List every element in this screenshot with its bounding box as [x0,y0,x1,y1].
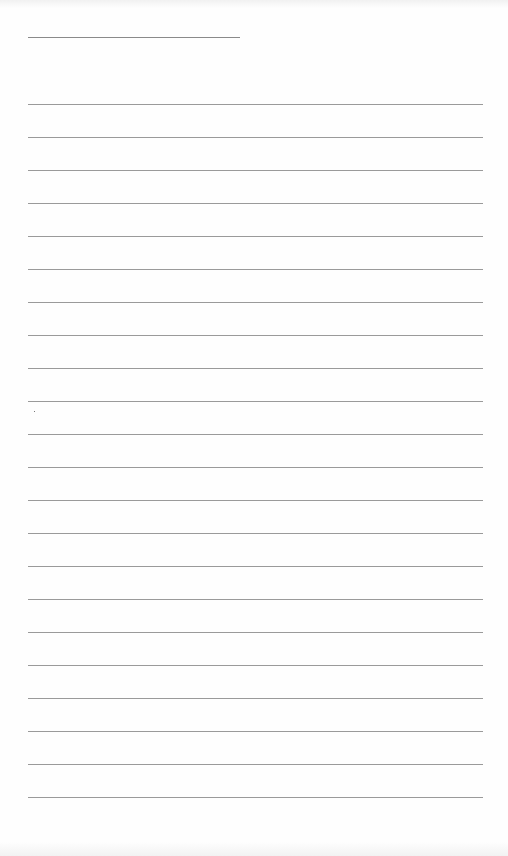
ruled-line [28,599,483,600]
ruled-line [28,335,483,336]
ruled-line [28,104,483,105]
page-top-edge [0,0,508,8]
ruled-line [28,731,483,732]
ruled-line [28,797,483,798]
ruled-line [28,698,483,699]
header-line [28,37,240,38]
page-bottom-edge [0,842,508,856]
ruled-line [28,764,483,765]
ruled-line [28,566,483,567]
ruled-line [28,137,483,138]
ruled-line [28,434,483,435]
ruled-line [28,368,483,369]
ink-dot [34,411,35,412]
ruled-line [28,203,483,204]
ruled-line [28,533,483,534]
notepaper-page [0,0,508,856]
ruled-line [28,500,483,501]
ruled-line [28,467,483,468]
ruled-line [28,632,483,633]
ruled-line [28,269,483,270]
ruled-line [28,302,483,303]
ruled-line [28,401,483,402]
ruled-line [28,665,483,666]
ruled-line [28,170,483,171]
ruled-line [28,236,483,237]
